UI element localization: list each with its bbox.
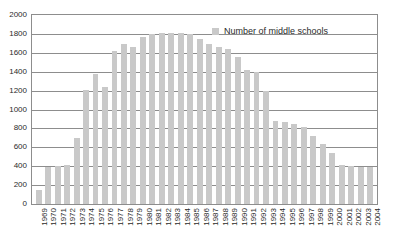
x-axis-slot: 1986 [195,206,205,252]
bar[interactable] [254,72,260,204]
x-axis-slot: 1971 [52,206,62,252]
bar[interactable] [45,167,51,204]
bar[interactable] [282,122,288,204]
x-axis-slot: 1999 [319,206,329,252]
x-axis-slot: 1974 [81,206,91,252]
bar-slot [337,15,346,204]
bar-slot [356,15,365,204]
bar-slot [72,15,81,204]
bar-slot [110,15,119,204]
bar[interactable] [339,165,345,204]
bar-slot [242,15,251,204]
bar[interactable] [367,167,373,204]
bar[interactable] [216,47,222,204]
x-axis-slot: 1976 [100,206,110,252]
bar-slot [261,15,270,204]
bar-slot [167,15,176,204]
bar-slot [280,15,289,204]
bar-slot [233,15,242,204]
bar-slot [91,15,100,204]
y-axis: 2000180016001400120010008006004002000 [0,14,30,205]
bar[interactable] [83,90,89,204]
y-axis-tick-label: 1600 [9,49,27,57]
bar-chart: 2000180016001400120010008006004002000 Nu… [0,0,397,252]
legend-swatch-icon [212,28,219,35]
y-axis-tick-label: 800 [14,124,27,132]
x-axis-slot: 1984 [176,206,186,252]
bar[interactable] [263,91,269,204]
bar[interactable] [358,167,364,204]
x-axis-slot: 1980 [138,206,148,252]
bar[interactable] [197,39,203,204]
bar[interactable] [320,144,326,204]
bar[interactable] [301,127,307,204]
bar-slot [62,15,71,204]
bar-slot [309,15,318,204]
x-axis-slot: 1978 [119,206,129,252]
bar[interactable] [102,87,108,204]
x-axis-slot: 1992 [252,206,262,252]
y-axis-tick-label: 1000 [9,106,27,114]
x-axis-slot: 1988 [214,206,224,252]
y-axis-tick-label: 1800 [9,30,27,38]
bar[interactable] [273,121,279,204]
bar-slot [318,15,327,204]
x-axis-slot: 1993 [262,206,272,252]
y-axis-tick-label: 0 [23,200,27,208]
bar[interactable] [168,33,174,204]
bar[interactable] [206,44,212,204]
y-axis-tick-label: 600 [14,143,27,151]
bar-slot [176,15,185,204]
bar[interactable] [291,124,297,204]
bar[interactable] [329,153,335,204]
x-axis-slot: 1997 [300,206,310,252]
bar[interactable] [187,34,193,204]
x-axis-slot: 1994 [271,206,281,252]
bar[interactable] [130,47,136,204]
bar[interactable] [348,166,354,204]
bar[interactable] [121,44,127,204]
bar[interactable] [55,166,61,204]
x-axis-slot: 1969 [33,206,43,252]
x-axis-slot: 1998 [309,206,319,252]
bar-slot [290,15,299,204]
bar[interactable] [159,33,165,204]
bar[interactable] [225,49,231,204]
x-axis-slot: 1981 [147,206,157,252]
bar[interactable] [140,37,146,204]
bar-slot [138,15,147,204]
bar[interactable] [178,33,184,204]
bar-slot [346,15,355,204]
bar-slot [157,15,166,204]
y-axis-tick-label: 2000 [9,11,27,19]
legend-label: Number of middle schools [224,27,328,36]
x-axis-tick-label: 2004 [374,208,382,226]
y-axis-tick-label: 1200 [9,87,27,95]
x-axis-slot: 1990 [233,206,243,252]
x-axis-slot: 1989 [224,206,234,252]
bar[interactable] [93,74,99,204]
bar[interactable] [235,57,241,204]
bar[interactable] [149,34,155,204]
x-axis-slot: 1977 [109,206,119,252]
x-axis-slot: 1973 [71,206,81,252]
x-axis-slot: 1975 [90,206,100,252]
y-axis-tick-label: 1400 [9,68,27,76]
chart-legend: Number of middle schools [212,27,328,36]
bar[interactable] [64,165,70,204]
bar[interactable] [244,70,250,204]
x-axis-slot: 1972 [62,206,72,252]
x-axis: 1969197019711972197319741975197619771978… [31,206,378,252]
bar[interactable] [310,136,316,204]
bar-slot [53,15,62,204]
x-axis-slot: 2003 [357,206,367,252]
bar-slot [365,15,374,204]
bar[interactable] [112,51,118,204]
bar-slot [214,15,223,204]
y-axis-tick-label: 400 [14,162,27,170]
x-axis-slot: 1970 [43,206,53,252]
bar[interactable] [74,138,80,204]
x-axis-slot: 1996 [290,206,300,252]
bar-slot [299,15,308,204]
bar[interactable] [36,190,42,204]
